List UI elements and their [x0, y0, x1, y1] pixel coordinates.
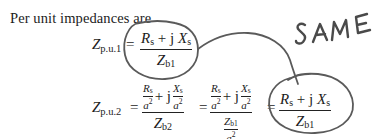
- circle-annotation-1: [124, 21, 198, 79]
- circle-annotation-2: [269, 74, 353, 133]
- handwritten-annotations: SAME: [0, 0, 381, 139]
- same-annotation: [296, 14, 370, 44]
- connector-curve: [198, 33, 298, 84]
